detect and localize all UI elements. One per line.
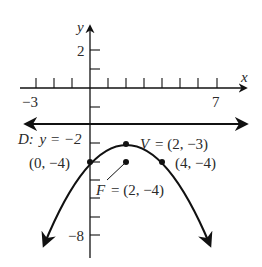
vertex-label: V = (2, −3) [140, 136, 208, 153]
y-tick-label-bottom: −8 [68, 228, 84, 244]
vertex-name: V [140, 136, 151, 152]
point-right [159, 159, 165, 165]
directrix-equation: y = −2 [38, 131, 82, 147]
parabola-graph: x −3 7 y 2 −8 D: y = −2 ( [0, 0, 262, 267]
y-axis-ticks [90, 50, 100, 235]
x-tick-label-min: −3 [22, 94, 38, 110]
directrix-name: D: [17, 131, 34, 147]
x-axis-label: x [240, 69, 248, 85]
focus-name: F [95, 182, 106, 198]
focus-coords: = (2, −4) [111, 182, 164, 199]
y-axis-label: y [75, 19, 84, 35]
point-right-label: (4, −4) [175, 155, 216, 172]
x-axis: x −3 7 [20, 69, 248, 110]
vertex-point [123, 141, 129, 147]
y-tick-label-top: 2 [77, 43, 85, 59]
focus-leader-line [107, 163, 125, 180]
point-left [87, 159, 93, 165]
x-tick-label-max: 7 [212, 94, 220, 110]
directrix-label: D: y = −2 [17, 131, 82, 147]
focus-label: F = (2, −4) [95, 182, 164, 199]
x-axis-ticks [36, 78, 217, 88]
vertex-coords: = (2, −3) [155, 136, 208, 153]
point-left-label: (0, −4) [29, 155, 70, 172]
